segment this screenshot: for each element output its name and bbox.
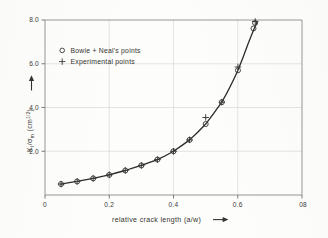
chart-svg: 8.0 6.0 4.0 2.0 0 0.2 0.4 0.6 08 — [0, 0, 328, 238]
xtick-label-0.2: 0.2 — [104, 201, 114, 208]
legend-label-experimental: Experimental points — [71, 58, 136, 66]
data-point-plus — [154, 156, 161, 163]
xtick-label-0.8: 08 — [299, 201, 307, 208]
y-tick-marks — [42, 20, 46, 151]
data-point-plus — [90, 175, 97, 182]
data-point-plus — [122, 167, 129, 174]
xtick-label-0.4: 0.4 — [169, 201, 179, 208]
x-axis-title: relative crack length (a/w) — [112, 216, 201, 224]
x-axis-arrow-icon — [213, 217, 228, 222]
data-point-plus — [106, 172, 113, 179]
y-axis-title-unit-sup: 1/2 — [26, 111, 31, 119]
legend-marker-circle-icon — [60, 48, 65, 53]
ytick-label-8.0: 8.0 — [29, 16, 39, 23]
x-tick-labels: 0 0.2 0.4 0.6 08 — [43, 201, 307, 208]
y-axis-title: KI/σm (cm1/2) — [26, 109, 35, 152]
xtick-label-0: 0 — [43, 201, 47, 208]
legend-label-bowie-neal: Bowie + Neal's points — [71, 47, 142, 55]
ytick-label-6.0: 6.0 — [29, 60, 39, 67]
xtick-label-0.6: 0.6 — [233, 201, 243, 208]
y-axis-title-unit-close: ) — [26, 109, 34, 112]
data-point-plus-outlier — [202, 114, 209, 121]
figure-container: 8.0 6.0 4.0 2.0 0 0.2 0.4 0.6 08 — [0, 0, 328, 238]
y-axis-arrow-icon — [29, 75, 34, 90]
data-point-plus — [58, 181, 65, 188]
x-tick-marks — [45, 195, 302, 199]
series-bowie-neal-markers — [59, 21, 258, 187]
legend: Bowie + Neal's points Experimental point… — [59, 47, 141, 66]
y-axis-title-unit-open: (cm — [26, 119, 34, 134]
x-axis-title-group: relative crack length (a/w) — [112, 216, 228, 224]
y-axis-title-group: KI/σm (cm1/2) — [26, 75, 35, 152]
data-point-plus — [138, 162, 145, 169]
data-point-plus — [74, 178, 81, 185]
